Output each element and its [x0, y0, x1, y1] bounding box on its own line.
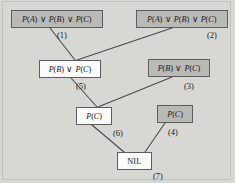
- clause-text: P(C): [86, 112, 102, 121]
- clause-text: P(A) ∨ P(B) ∨ P(C): [147, 15, 216, 24]
- clause-text: P(B) ∨ P(C): [158, 64, 200, 73]
- diagram-canvas: P(A) ∨ P(B) ∨ P(C)P(A) ∨ P(B) ∨ P(C)P(B)…: [0, 0, 235, 183]
- clause-node-1[interactable]: P(A) ∨ P(B) ∨ P(C): [11, 10, 103, 28]
- clause-text: P(B) ∨ P(C): [49, 65, 91, 74]
- clause-node-5[interactable]: P(B) ∨ P(C): [39, 60, 101, 78]
- edge-n3-to-n6: [98, 77, 172, 107]
- clause-number-7: (7): [153, 172, 163, 181]
- clause-node-7[interactable]: NIL: [117, 152, 152, 170]
- edge-n2-to-n5: [77, 28, 172, 60]
- clause-text: P(A) ∨ P(B) ∨ P(C): [22, 15, 91, 24]
- clause-node-3[interactable]: P(B) ∨ P(C): [148, 59, 210, 77]
- clause-number-2: (2): [207, 31, 217, 40]
- clause-number-4: (4): [168, 128, 178, 137]
- clause-number-1: (1): [57, 31, 67, 40]
- edge-n4-to-n7: [145, 123, 165, 152]
- clause-node-2[interactable]: P(A) ∨ P(B) ∨ P(C): [136, 10, 228, 28]
- clause-text: P(C): [167, 110, 183, 119]
- clause-node-4[interactable]: P(C): [157, 105, 193, 123]
- clause-text: NIL: [127, 157, 141, 166]
- clause-node-6[interactable]: P(C): [76, 107, 112, 125]
- clause-number-5: (5): [76, 82, 86, 91]
- clause-number-3: (3): [184, 82, 194, 91]
- clause-number-6: (6): [113, 129, 123, 138]
